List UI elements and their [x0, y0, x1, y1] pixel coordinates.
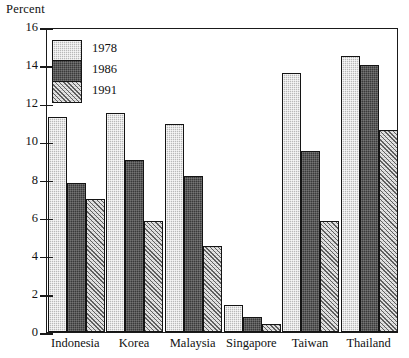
- y-tick-mark-left: [47, 105, 53, 106]
- y-tick-label: 4: [32, 249, 38, 264]
- legend-label-1986: 1986: [92, 62, 117, 77]
- y-tick-mark-right: [40, 143, 47, 144]
- bar-korea-1978: [106, 113, 125, 332]
- y-axis-title: Percent: [6, 2, 45, 17]
- bar-group-singapore: [223, 29, 282, 332]
- bar-singapore-1991: [262, 324, 281, 332]
- bar-taiwan-1991: [320, 221, 339, 332]
- y-tick-label: 0: [32, 325, 38, 340]
- bar-thailand-1978: [341, 56, 360, 332]
- legend-item-1991: 1991: [52, 82, 170, 103]
- bar-malaysia-1986: [184, 176, 203, 332]
- y-tick-label: 2: [32, 287, 38, 302]
- bar-korea-1991: [144, 221, 163, 332]
- legend-label-1978: 1978: [92, 41, 117, 56]
- y-tick-mark-left: [47, 257, 53, 258]
- bar-indonesia-1978: [48, 117, 67, 332]
- y-tick-label: 14: [26, 58, 39, 73]
- bar-indonesia-1991: [86, 199, 105, 332]
- y-tick-mark-left: [47, 219, 53, 220]
- y-tick-mark-right: [40, 257, 47, 258]
- y-tick-mark-right: [40, 181, 47, 182]
- bar-group-taiwan: [282, 29, 341, 332]
- y-tick-mark-right: [40, 28, 47, 29]
- legend-label-1991: 1991: [92, 83, 117, 98]
- y-tick-label: 8: [32, 173, 38, 188]
- y-tick-mark-right: [40, 219, 47, 220]
- y-tick-mark-left: [47, 333, 53, 334]
- bar-chart: Percent 0246810121416 IndonesiaKoreaMala…: [0, 0, 409, 358]
- bar-singapore-1978: [224, 305, 243, 332]
- legend-swatch-1986: [52, 61, 82, 82]
- y-tick-label: 12: [26, 96, 39, 111]
- legend-swatch-1978: [52, 40, 82, 61]
- y-tick-mark-left: [47, 28, 53, 29]
- bar-taiwan-1986: [301, 151, 320, 332]
- bar-indonesia-1986: [67, 183, 86, 332]
- bar-singapore-1986: [243, 317, 262, 332]
- x-axis-label-taiwan: Taiwan: [292, 336, 329, 351]
- x-axis-label-korea: Korea: [119, 336, 150, 351]
- y-tick-mark-left: [47, 295, 53, 296]
- y-tick-mark-left: [47, 143, 53, 144]
- y-tick-mark-right: [40, 295, 47, 296]
- bar-malaysia-1991: [203, 246, 222, 332]
- y-tick-label: 10: [26, 134, 39, 149]
- bar-malaysia-1978: [165, 124, 184, 332]
- bar-taiwan-1978: [282, 73, 301, 332]
- y-tick-label: 16: [26, 20, 39, 35]
- y-tick-mark-right: [40, 105, 47, 106]
- bar-korea-1986: [125, 160, 144, 332]
- bar-thailand-1991: [379, 130, 398, 332]
- legend-item-1986: 1986: [52, 61, 170, 82]
- legend-item-1978: 1978: [52, 40, 170, 61]
- x-axis-label-malaysia: Malaysia: [170, 336, 216, 351]
- bar-thailand-1986: [360, 65, 379, 332]
- y-tick-mark-right: [40, 66, 47, 67]
- bar-group-malaysia: [164, 29, 223, 332]
- x-axis-label-thailand: Thailand: [346, 336, 390, 351]
- x-axis-label-singapore: Singapore: [226, 336, 277, 351]
- bar-group-thailand: [340, 29, 399, 332]
- x-axis-label-indonesia: Indonesia: [51, 336, 100, 351]
- chart-legend: 197819861991: [52, 40, 170, 103]
- x-axis-labels: IndonesiaKoreaMalaysiaSingaporeTaiwanTha…: [46, 336, 398, 356]
- legend-swatch-1991: [52, 82, 82, 103]
- y-tick-mark-left: [47, 181, 53, 182]
- y-tick-label: 6: [32, 211, 38, 226]
- y-tick-mark-right: [40, 333, 47, 334]
